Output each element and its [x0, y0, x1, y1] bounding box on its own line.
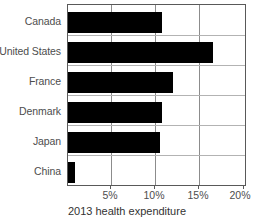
- gridline-horizontal-2: [68, 65, 245, 66]
- x-axis-title: 2013 health expenditure: [0, 205, 254, 218]
- tick-label-10pct: 10%: [143, 189, 164, 201]
- category-label-united-states: United States: [0, 46, 61, 57]
- category-label-canada: Canada: [0, 16, 61, 27]
- bar-france: [68, 72, 173, 93]
- plot-area: [67, 4, 246, 186]
- tick-label-5pct: 5%: [102, 189, 117, 201]
- category-label-china: China: [0, 166, 61, 177]
- gridline-horizontal-5: [68, 155, 245, 156]
- category-label-denmark: Denmark: [0, 106, 61, 117]
- bar-japan: [68, 132, 160, 153]
- gridline-horizontal-4: [68, 125, 245, 126]
- bar-united-states: [68, 42, 213, 63]
- gridline-horizontal-1: [68, 35, 245, 36]
- bar-denmark: [68, 102, 162, 123]
- bar-chart-figure: Canada United States France Denmark Japa…: [0, 0, 254, 218]
- gridline-horizontal-3: [68, 95, 245, 96]
- bar-canada: [68, 12, 162, 33]
- category-label-france: France: [0, 76, 61, 87]
- bar-china: [68, 162, 75, 183]
- category-label-japan: Japan: [0, 136, 61, 147]
- tick-label-20pct: 20%: [229, 189, 250, 201]
- value-axis: 5% 10% 15% 20%: [67, 186, 246, 204]
- tick-label-15pct: 15%: [187, 189, 208, 201]
- category-axis: Canada United States France Denmark Japa…: [0, 4, 64, 186]
